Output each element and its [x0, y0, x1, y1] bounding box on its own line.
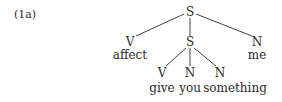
edge-s2-v [166, 48, 186, 66]
word-something: something [203, 82, 267, 94]
word-me: me [248, 49, 266, 61]
node-n-you: N [185, 67, 196, 79]
node-root-s: S [186, 6, 194, 18]
edge-s2-n2 [194, 48, 216, 66]
node-v: V [126, 36, 135, 48]
word-affect: affect [113, 49, 147, 61]
node-embedded-s: S [186, 36, 194, 48]
word-give: give [149, 82, 174, 94]
node-n-something: N [215, 67, 226, 79]
node-v-give: V [158, 67, 167, 79]
edge-s-n [196, 14, 252, 36]
word-you: you [179, 82, 201, 94]
node-n-me: N [252, 36, 263, 48]
edge-s-v [136, 14, 184, 36]
